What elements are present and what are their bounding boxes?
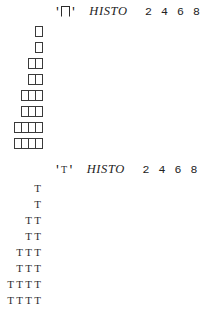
bar-cell-tee: T [33, 182, 42, 195]
quote-open: ' [54, 5, 61, 18]
histogram-row [0, 134, 203, 150]
quote-open: ' [54, 163, 61, 176]
histogram-row-bar: TTT [15, 246, 42, 259]
histogram-row [0, 86, 203, 102]
bar-cell-tee: T [33, 230, 42, 243]
histogram-box-block: '' HISTO 2468 [0, 0, 203, 150]
bar-cell-box [35, 106, 43, 117]
bar-cell-box [35, 138, 43, 149]
box-glyph-icon [61, 2, 70, 24]
histogram-tee-symbol-label: 'T' [54, 163, 75, 176]
histogram-row-bar [35, 26, 42, 37]
histogram-row: TTTT [0, 292, 203, 308]
bar-cell-tee: T [33, 262, 42, 275]
histogram-row: TTT [0, 260, 203, 276]
tick-label: 8 [186, 159, 202, 181]
tick-label: 4 [154, 159, 170, 181]
bar-cell-tee: T [33, 246, 42, 259]
bar-cell-tee: T [15, 246, 24, 259]
histogram-box-ticks: 2468 [141, 5, 203, 18]
histogram-row-bar: TTTT [6, 278, 42, 291]
histogram-tee-title: HISTO [87, 162, 125, 176]
bar-cell-box [35, 26, 43, 37]
histogram-row [0, 38, 203, 54]
histogram-box-title: HISTO [89, 4, 127, 18]
bar-cell-tee: T [24, 294, 33, 307]
histogram-row [0, 22, 203, 38]
quote-close: ' [70, 5, 77, 18]
histogram-row-bar [14, 122, 42, 133]
tick-label: 8 [189, 1, 203, 23]
histogram-row-bar [21, 90, 42, 101]
bar-cell-tee: T [24, 246, 33, 259]
histogram-row: T [0, 196, 203, 212]
histogram-row [0, 118, 203, 134]
bar-cell-box [35, 74, 43, 85]
bar-cell-tee: T [6, 294, 15, 307]
histogram-tee-block: 'T' HISTO 2468 TTTTTTTTTTTTTTTTTTTT [0, 158, 203, 308]
histogram-row: TTTT [0, 276, 203, 292]
bar-cell-tee: T [24, 278, 33, 291]
bar-cell-box [35, 58, 43, 69]
histogram-row-bar: TT [24, 230, 42, 243]
bar-cell-box [35, 90, 43, 101]
histogram-row: T [0, 180, 203, 196]
histogram-tee-header: 'T' HISTO 2468 [0, 158, 203, 180]
histogram-row-bar [28, 74, 42, 85]
histogram-row-bar [28, 58, 42, 69]
histogram-row-bar [35, 42, 42, 53]
histogram-box-header: '' HISTO 2468 [0, 0, 203, 22]
histogram-row: TTT [0, 244, 203, 260]
bar-cell-tee: T [24, 214, 33, 227]
histogram-row-bar: TTTT [6, 294, 42, 307]
histogram-row [0, 54, 203, 70]
bar-cell-tee: T [6, 278, 15, 291]
histogram-row: TT [0, 212, 203, 228]
histogram-row-bar: T [33, 198, 42, 211]
histogram-box-rows [0, 22, 203, 150]
histogram-row-bar: TT [24, 214, 42, 227]
bar-cell-tee: T [33, 198, 42, 211]
tick-label: 4 [157, 1, 173, 23]
bar-cell-tee: T [33, 214, 42, 227]
tick-label: 6 [170, 159, 186, 181]
bar-cell-tee: T [15, 278, 24, 291]
tick-label: 2 [138, 159, 154, 181]
histogram-row-bar [14, 138, 42, 149]
quote-close: ' [67, 163, 74, 176]
histogram-box-symbol-label: '' [54, 5, 77, 18]
histogram-row [0, 70, 203, 86]
bar-cell-tee: T [33, 294, 42, 307]
bar-cell-tee: T [33, 278, 42, 291]
histogram-row-bar: T [33, 182, 42, 195]
bar-cell-tee: T [15, 262, 24, 275]
bar-cell-box [35, 122, 43, 133]
histogram-tee-rows: TTTTTTTTTTTTTTTTTTTT [0, 180, 203, 308]
bar-cell-tee: T [24, 230, 33, 243]
histogram-row-bar [21, 106, 42, 117]
histogram-row-bar: TTT [15, 262, 42, 275]
bar-cell-box [35, 42, 43, 53]
bar-cell-tee: T [24, 262, 33, 275]
histogram-row: TT [0, 228, 203, 244]
tick-label: 2 [141, 1, 157, 23]
histogram-row [0, 102, 203, 118]
bar-cell-tee: T [15, 294, 24, 307]
histogram-tee-ticks: 2468 [138, 163, 202, 176]
tick-label: 6 [173, 1, 189, 23]
